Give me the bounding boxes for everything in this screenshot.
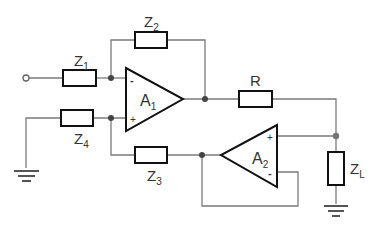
z2-label: Z2 [144, 13, 159, 33]
a2-inverting-sign: - [268, 167, 272, 179]
a2-noninverting-sign: + [267, 132, 273, 143]
a1-inverting-sign: - [130, 74, 134, 86]
ground-icon [14, 171, 39, 181]
z4-label: Z4 [74, 130, 89, 150]
z3-box [135, 147, 167, 163]
ground-icon [324, 206, 348, 216]
input-terminal [23, 75, 29, 81]
zl-label: ZL [350, 160, 365, 180]
circuit-diagram: Z1 Z2 Z4 Z3 R ZL A1 A2 - + + - [0, 0, 376, 228]
zl-box [328, 152, 344, 185]
r-label: R [250, 72, 261, 89]
a1-noninverting-sign: + [130, 114, 136, 125]
r-box [239, 91, 272, 107]
z3-label: Z3 [147, 167, 162, 187]
z2-box [135, 32, 167, 48]
z4-box [61, 110, 93, 126]
z1-box [63, 70, 96, 86]
